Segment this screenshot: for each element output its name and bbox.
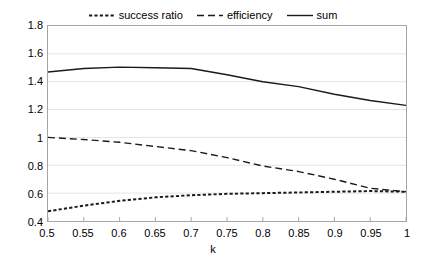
series-line-success-ratio — [48, 191, 406, 211]
y-axis-ticks: 0.40.60.811.21.41.61.8 — [0, 25, 43, 222]
x-tick-label: 0.75 — [216, 227, 237, 239]
x-axis-title: k — [0, 243, 426, 255]
legend-label-success-ratio: success ratio — [119, 9, 183, 21]
legend-item-efficiency: efficiency — [197, 9, 273, 21]
x-tick-label: 0.55 — [72, 227, 93, 239]
x-tick-label: 0.95 — [360, 227, 381, 239]
legend-key-success-ratio-icon — [89, 11, 115, 20]
y-tick-label: 0.6 — [28, 188, 43, 199]
y-tick-label: 1.6 — [28, 48, 43, 59]
plot-area — [47, 25, 407, 222]
line-chart: success ratio efficiency sum 0.40.60.811… — [0, 0, 426, 270]
legend-key-efficiency-icon — [197, 11, 223, 20]
series-line-efficiency — [48, 137, 406, 191]
y-tick-label: 0.4 — [28, 217, 43, 228]
y-tick-label: 1 — [37, 132, 43, 143]
plot-canvas — [48, 26, 406, 221]
x-tick-label: 0.8 — [255, 227, 270, 239]
y-tick-label: 1.8 — [28, 20, 43, 31]
series-line-sum — [48, 67, 406, 105]
x-tick-label: 0.9 — [327, 227, 342, 239]
x-tick-label: 0.85 — [288, 227, 309, 239]
legend-label-sum: sum — [317, 9, 338, 21]
y-tick-label: 1.4 — [28, 76, 43, 87]
y-tick-label: 0.8 — [28, 160, 43, 171]
x-axis-ticks: 0.50.550.60.650.70.750.80.850.90.951 — [47, 227, 407, 241]
x-tick-label: 0.65 — [144, 227, 165, 239]
legend-label-efficiency: efficiency — [227, 9, 273, 21]
y-tick-label: 1.2 — [28, 104, 43, 115]
legend-item-success-ratio: success ratio — [89, 9, 183, 21]
legend-key-sum-icon — [287, 11, 313, 20]
legend-item-sum: sum — [287, 9, 338, 21]
x-tick-label: 1 — [404, 227, 410, 239]
chart-legend: success ratio efficiency sum — [0, 9, 426, 21]
x-tick-label: 0.6 — [111, 227, 126, 239]
x-tick-label: 0.7 — [183, 227, 198, 239]
x-tick-label: 0.5 — [39, 227, 54, 239]
